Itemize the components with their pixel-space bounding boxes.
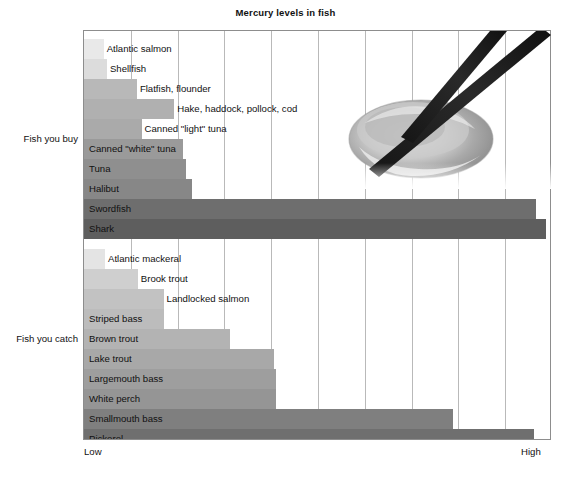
bar-row: Swordfish <box>84 199 551 219</box>
bar-category-label: Striped bass <box>84 309 142 329</box>
bar-category-label: Largemouth bass <box>84 369 163 389</box>
bar-row: Halibut <box>84 179 551 199</box>
bar <box>84 119 142 139</box>
bar-row: Pickerel <box>84 429 551 440</box>
bar-row: Flatfish, flounder <box>84 79 551 99</box>
bar-category-label: Swordfish <box>84 199 131 219</box>
bar-row: Shark <box>84 219 551 239</box>
bar-category-label: Brook trout <box>136 269 188 289</box>
chart-title: Mercury levels in fish <box>0 7 571 18</box>
bar <box>84 199 536 219</box>
bar-category-label: Flatfish, flounder <box>135 79 211 99</box>
bar-category-label: Smallmouth bass <box>84 409 163 429</box>
bar-row: Brown trout <box>84 329 551 349</box>
bar-category-label: Halibut <box>84 179 119 199</box>
bar-row: Canned "light" tuna <box>84 119 551 139</box>
bar-row: Tuna <box>84 159 551 179</box>
group-label-fish-you-buy: Fish you buy <box>0 133 78 144</box>
bar-row: Brook trout <box>84 269 551 289</box>
bar-row: White perch <box>84 389 551 409</box>
plot-area: Atlantic salmonShellfishFlatfish, flound… <box>83 30 551 440</box>
axis-label-low: Low <box>84 446 102 457</box>
bar <box>84 219 546 239</box>
bar-row: Striped bass <box>84 309 551 329</box>
bar-row: Atlantic mackeral <box>84 249 551 269</box>
bar-category-label: Atlantic salmon <box>102 39 172 59</box>
bar-category-label: White perch <box>84 389 140 409</box>
bar-category-label: Shark <box>84 219 114 239</box>
bar-category-label: Pickerel <box>84 429 123 440</box>
bar <box>84 269 138 289</box>
chart-root: Mercury levels in fish Atlantic salmonSh… <box>0 0 571 484</box>
bar <box>84 249 105 269</box>
bar-category-label: Landlocked salmon <box>162 289 250 309</box>
bar-category-label: Canned "white" tuna <box>84 139 176 159</box>
bar-row: Hake, haddock, pollock, cod <box>84 99 551 119</box>
bar-row: Shellfish <box>84 59 551 79</box>
bar-row: Atlantic salmon <box>84 39 551 59</box>
bar-category-label: Shellfish <box>105 59 146 79</box>
bar-category-label: Hake, haddock, pollock, cod <box>172 99 297 119</box>
bar <box>84 59 107 79</box>
axis-label-high: High <box>521 446 541 457</box>
bar-category-label: Lake trout <box>84 349 132 369</box>
bar-category-label: Tuna <box>84 159 111 179</box>
bar-row: Largemouth bass <box>84 369 551 389</box>
bar <box>84 99 174 119</box>
bar <box>84 79 137 99</box>
bar-row: Lake trout <box>84 349 551 369</box>
bar-row: Canned "white" tuna <box>84 139 551 159</box>
bar-row: Smallmouth bass <box>84 409 551 429</box>
bar-category-label: Brown trout <box>84 329 138 349</box>
group-label-fish-you-catch: Fish you catch <box>0 333 78 344</box>
bar-row: Landlocked salmon <box>84 289 551 309</box>
bar <box>84 429 534 440</box>
bar-category-label: Canned "light" tuna <box>140 119 227 139</box>
bar <box>84 289 164 309</box>
bar-category-label: Atlantic mackeral <box>103 249 181 269</box>
